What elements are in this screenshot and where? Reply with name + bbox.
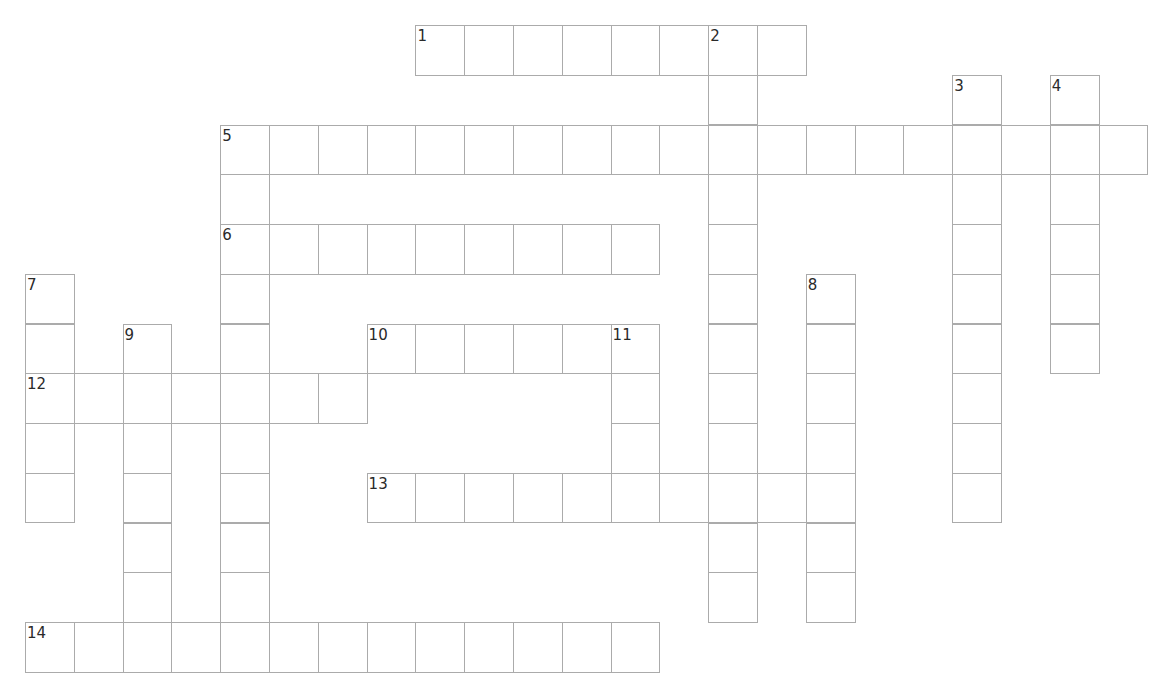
crossword-cell-r9-c0[interactable] bbox=[25, 473, 75, 524]
crossword-cell-r0-c14[interactable]: 2 bbox=[708, 25, 758, 76]
crossword-cell-r8-c4[interactable] bbox=[220, 423, 270, 474]
crossword-cell-r12-c0[interactable]: 14 bbox=[25, 622, 75, 673]
crossword-cell-r2-c16[interactable] bbox=[806, 125, 856, 176]
crossword-cell-r9-c8[interactable] bbox=[415, 473, 465, 524]
crossword-cell-r2-c12[interactable] bbox=[611, 125, 661, 176]
crossword-cell-r6-c0[interactable] bbox=[25, 324, 75, 375]
crossword-cell-r5-c19[interactable] bbox=[952, 274, 1002, 325]
crossword-cell-r5-c0[interactable]: 7 bbox=[25, 274, 75, 325]
crossword-cell-r6-c7[interactable]: 10 bbox=[367, 324, 417, 375]
crossword-cell-r7-c4[interactable] bbox=[220, 373, 270, 424]
crossword-cell-r7-c12[interactable] bbox=[611, 373, 661, 424]
crossword-cell-r9-c10[interactable] bbox=[513, 473, 563, 524]
crossword-cell-r5-c4[interactable] bbox=[220, 274, 270, 325]
crossword-cell-r0-c12[interactable] bbox=[611, 25, 661, 76]
crossword-cell-r5-c14[interactable] bbox=[708, 274, 758, 325]
crossword-cell-r7-c1[interactable] bbox=[74, 373, 124, 424]
crossword-cell-r5-c16[interactable]: 8 bbox=[806, 274, 856, 325]
crossword-cell-r7-c16[interactable] bbox=[806, 373, 856, 424]
crossword-cell-r7-c2[interactable] bbox=[123, 373, 173, 424]
crossword-cell-r6-c2[interactable]: 9 bbox=[123, 324, 173, 375]
crossword-cell-r2-c14[interactable] bbox=[708, 125, 758, 176]
crossword-cell-r11-c2[interactable] bbox=[123, 572, 173, 623]
crossword-cell-r3-c4[interactable] bbox=[220, 174, 270, 225]
crossword-cell-r8-c16[interactable] bbox=[806, 423, 856, 474]
crossword-cell-r4-c10[interactable] bbox=[513, 224, 563, 275]
crossword-cell-r9-c11[interactable] bbox=[562, 473, 612, 524]
crossword-cell-r11-c4[interactable] bbox=[220, 572, 270, 623]
crossword-cell-r7-c3[interactable] bbox=[171, 373, 221, 424]
crossword-cell-r12-c8[interactable] bbox=[415, 622, 465, 673]
crossword-cell-r9-c2[interactable] bbox=[123, 473, 173, 524]
crossword-cell-r3-c19[interactable] bbox=[952, 174, 1002, 225]
crossword-cell-r9-c7[interactable]: 13 bbox=[367, 473, 417, 524]
crossword-cell-r2-c15[interactable] bbox=[757, 125, 807, 176]
crossword-cell-r4-c8[interactable] bbox=[415, 224, 465, 275]
crossword-cell-r2-c5[interactable] bbox=[269, 125, 319, 176]
crossword-cell-r9-c4[interactable] bbox=[220, 473, 270, 524]
crossword-cell-r0-c15[interactable] bbox=[757, 25, 807, 76]
crossword-cell-r5-c21[interactable] bbox=[1050, 274, 1100, 325]
crossword-cell-r1-c14[interactable] bbox=[708, 75, 758, 126]
crossword-cell-r2-c9[interactable] bbox=[464, 125, 514, 176]
crossword-cell-r4-c9[interactable] bbox=[464, 224, 514, 275]
crossword-cell-r9-c9[interactable] bbox=[464, 473, 514, 524]
crossword-cell-r3-c14[interactable] bbox=[708, 174, 758, 225]
crossword-cell-r9-c16[interactable] bbox=[806, 473, 856, 524]
crossword-cell-r0-c10[interactable] bbox=[513, 25, 563, 76]
crossword-cell-r7-c5[interactable] bbox=[269, 373, 319, 424]
crossword-cell-r4-c6[interactable] bbox=[318, 224, 368, 275]
crossword-cell-r6-c19[interactable] bbox=[952, 324, 1002, 375]
crossword-cell-r8-c2[interactable] bbox=[123, 423, 173, 474]
crossword-cell-r8-c12[interactable] bbox=[611, 423, 661, 474]
crossword-cell-r8-c19[interactable] bbox=[952, 423, 1002, 474]
crossword-cell-r2-c4[interactable]: 5 bbox=[220, 125, 270, 176]
crossword-cell-r12-c11[interactable] bbox=[562, 622, 612, 673]
crossword-cell-r2-c20[interactable] bbox=[1001, 125, 1051, 176]
crossword-cell-r12-c4[interactable] bbox=[220, 622, 270, 673]
crossword-cell-r0-c9[interactable] bbox=[464, 25, 514, 76]
crossword-cell-r6-c14[interactable] bbox=[708, 324, 758, 375]
crossword-cell-r10-c16[interactable] bbox=[806, 523, 856, 574]
crossword-cell-r2-c21[interactable] bbox=[1050, 125, 1100, 176]
crossword-cell-r4-c14[interactable] bbox=[708, 224, 758, 275]
crossword-cell-r4-c4[interactable]: 6 bbox=[220, 224, 270, 275]
crossword-cell-r6-c16[interactable] bbox=[806, 324, 856, 375]
crossword-cell-r12-c10[interactable] bbox=[513, 622, 563, 673]
crossword-cell-r2-c13[interactable] bbox=[659, 125, 709, 176]
crossword-cell-r11-c14[interactable] bbox=[708, 572, 758, 623]
crossword-cell-r10-c4[interactable] bbox=[220, 523, 270, 574]
crossword-cell-r4-c12[interactable] bbox=[611, 224, 661, 275]
crossword-cell-r10-c2[interactable] bbox=[123, 523, 173, 574]
crossword-cell-r7-c14[interactable] bbox=[708, 373, 758, 424]
crossword-cell-r2-c22[interactable] bbox=[1099, 125, 1149, 176]
crossword-cell-r12-c1[interactable] bbox=[74, 622, 124, 673]
crossword-cell-r2-c19[interactable] bbox=[952, 125, 1002, 176]
crossword-cell-r6-c4[interactable] bbox=[220, 324, 270, 375]
crossword-cell-r8-c14[interactable] bbox=[708, 423, 758, 474]
crossword-cell-r7-c19[interactable] bbox=[952, 373, 1002, 424]
crossword-cell-r3-c21[interactable] bbox=[1050, 174, 1100, 225]
crossword-cell-r2-c7[interactable] bbox=[367, 125, 417, 176]
crossword-cell-r12-c5[interactable] bbox=[269, 622, 319, 673]
crossword-cell-r9-c12[interactable] bbox=[611, 473, 661, 524]
crossword-cell-r12-c6[interactable] bbox=[318, 622, 368, 673]
crossword-cell-r12-c7[interactable] bbox=[367, 622, 417, 673]
crossword-cell-r4-c19[interactable] bbox=[952, 224, 1002, 275]
crossword-cell-r2-c17[interactable] bbox=[855, 125, 905, 176]
crossword-cell-r9-c19[interactable] bbox=[952, 473, 1002, 524]
crossword-cell-r4-c21[interactable] bbox=[1050, 224, 1100, 275]
crossword-cell-r4-c7[interactable] bbox=[367, 224, 417, 275]
crossword-cell-r0-c13[interactable] bbox=[659, 25, 709, 76]
crossword-cell-r6-c9[interactable] bbox=[464, 324, 514, 375]
crossword-cell-r4-c11[interactable] bbox=[562, 224, 612, 275]
crossword-cell-r9-c14[interactable] bbox=[708, 473, 758, 524]
crossword-cell-r4-c5[interactable] bbox=[269, 224, 319, 275]
crossword-cell-r9-c15[interactable] bbox=[757, 473, 807, 524]
crossword-cell-r7-c6[interactable] bbox=[318, 373, 368, 424]
crossword-cell-r2-c6[interactable] bbox=[318, 125, 368, 176]
crossword-cell-r12-c3[interactable] bbox=[171, 622, 221, 673]
crossword-cell-r2-c11[interactable] bbox=[562, 125, 612, 176]
crossword-cell-r6-c11[interactable] bbox=[562, 324, 612, 375]
crossword-cell-r1-c21[interactable]: 4 bbox=[1050, 75, 1100, 126]
